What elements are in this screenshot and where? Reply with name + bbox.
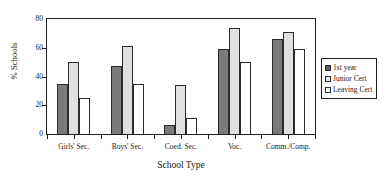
x-axis-title: School Type — [46, 160, 316, 170]
bar — [57, 84, 68, 134]
bar — [133, 84, 144, 134]
legend-swatch-icon — [325, 87, 331, 93]
legend-item-label: Junior Cert — [333, 75, 367, 83]
bar-group — [111, 19, 144, 134]
x-axis-boundary-tick-mark — [208, 135, 209, 139]
legend-item[interactable]: 1st year — [325, 62, 372, 73]
bar — [79, 98, 90, 134]
bar — [294, 49, 305, 134]
legend-swatch-icon — [325, 76, 331, 82]
x-axis-boundary-tick-mark — [101, 135, 102, 139]
bar — [218, 49, 229, 134]
bar-group — [272, 19, 305, 134]
bar — [272, 39, 283, 134]
bar — [240, 62, 251, 134]
x-axis-tick-label: Comm./Comp. — [253, 142, 323, 151]
bar — [229, 28, 240, 134]
x-axis-boundary-tick-mark — [154, 135, 155, 139]
legend-item[interactable]: Leaving Cert — [325, 84, 372, 95]
bar — [283, 32, 294, 134]
x-axis-tick-mark — [74, 135, 75, 139]
bar-chart-figure: % Schools 020406080 Girls' Sec.Boys' Sec… — [0, 0, 390, 186]
bar-group — [218, 19, 251, 134]
bar — [122, 46, 133, 134]
legend-swatch-icon — [325, 65, 331, 71]
legend-item[interactable]: Junior Cert — [325, 73, 372, 84]
x-axis-tick-mark — [235, 135, 236, 139]
legend-item-label: Leaving Cert — [333, 86, 372, 94]
bar — [175, 85, 186, 134]
x-axis-tick-mark — [288, 135, 289, 139]
bar — [186, 118, 197, 134]
chart-legend: 1st yearJunior CertLeaving Cert — [321, 58, 377, 99]
bar — [68, 62, 79, 134]
bar — [111, 66, 122, 134]
x-axis-tick-mark — [127, 135, 128, 139]
bar-group — [164, 19, 197, 134]
y-axis-tick-label: 0 — [3, 130, 43, 138]
y-axis-tick-label: 40 — [3, 73, 43, 81]
bars-layer — [47, 19, 315, 134]
bar — [164, 125, 175, 134]
x-axis-boundary-tick-mark — [261, 135, 262, 139]
y-axis-tick-label: 20 — [3, 101, 43, 109]
x-axis-tick-mark — [181, 135, 182, 139]
x-axis-boundary-tick-mark — [47, 135, 48, 139]
y-axis-tick-label: 60 — [3, 44, 43, 52]
legend-item-label: 1st year — [333, 64, 357, 72]
y-axis-title: % Schools — [9, 21, 19, 101]
x-axis-boundary-tick-mark — [315, 135, 316, 139]
bar-group — [57, 19, 90, 134]
y-axis-tick-label: 80 — [3, 15, 43, 23]
